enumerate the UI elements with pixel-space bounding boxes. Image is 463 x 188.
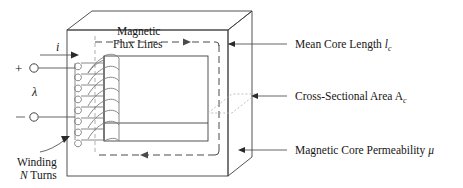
mean-core-length-arrowhead xyxy=(228,41,235,47)
cross-section-slice xyxy=(208,94,256,113)
winding-label-line1: Winding xyxy=(17,156,57,169)
coil-turn-rear-5 xyxy=(104,99,119,103)
winding-callout-arrow xyxy=(40,136,70,152)
right-callouts xyxy=(228,41,287,153)
coil-turn-front-7 xyxy=(88,123,104,139)
coil-loop-8 xyxy=(75,140,82,147)
coil-loop-3 xyxy=(75,85,82,92)
core-permeability-arrowhead xyxy=(238,147,245,153)
flux-linkage-symbol-label: λ xyxy=(31,85,37,99)
coil-turn-rear-6 xyxy=(104,110,119,114)
coil-loop-6 xyxy=(75,118,82,125)
positive-sign-label: + xyxy=(15,61,22,76)
magnetic-core-figure: Magnetic Flux Lines Mean Core Length lc … xyxy=(0,0,463,188)
coil-turn-rear-3 xyxy=(104,77,119,81)
current-symbol-label: i xyxy=(56,40,59,54)
coil-loop-5 xyxy=(75,107,82,114)
positive-terminal[interactable] xyxy=(30,64,38,72)
flux-arrow-bottom xyxy=(140,152,148,159)
flux-corner-bottom-right xyxy=(215,151,219,155)
terminals-and-leads xyxy=(16,64,75,121)
cross-section-subscript: c xyxy=(403,96,407,105)
cross-section-outline xyxy=(208,94,256,113)
mean-core-length-label: Mean Core Length lc xyxy=(295,38,392,53)
coil-turn-front-1 xyxy=(88,57,104,73)
flux-lines-label-line1: Magnetic xyxy=(117,25,160,38)
winding-turns-text: Turns xyxy=(28,169,58,181)
flux-arrow-top xyxy=(183,39,191,46)
core-window-rect xyxy=(104,56,208,141)
coil-turn-front-5 xyxy=(88,101,104,117)
winding-callout-line xyxy=(40,139,66,152)
coil-loop-7 xyxy=(75,129,82,136)
coil-turn-front-6 xyxy=(88,112,104,128)
coil-turn-rear-1 xyxy=(88,57,104,73)
coil-loop-4 xyxy=(75,96,82,103)
flux-corner-top-right xyxy=(216,42,219,46)
coil-loop-2 xyxy=(75,74,82,81)
mean-core-length-subscript: c xyxy=(388,44,392,53)
current-arrow-group xyxy=(40,52,79,59)
coil-turn-rear-2 xyxy=(104,66,119,70)
winding-coil xyxy=(75,54,119,147)
core-permeability-text: Magnetic Core Permeability xyxy=(295,144,428,157)
core-permeability-symbol: μ xyxy=(427,144,434,157)
cross-section-label: Cross-Sectional Area Ac xyxy=(295,90,407,105)
core-permeability-label: Magnetic Core Permeability μ xyxy=(295,144,434,157)
mean-core-length-text: Mean Core Length xyxy=(295,38,385,51)
core-diagram-svg: Magnetic Flux Lines Mean Core Length lc … xyxy=(0,0,463,188)
coil-turn-front-4 xyxy=(88,90,104,106)
coil-loop-1 xyxy=(75,63,82,70)
cross-section-text: Cross-Sectional Area A xyxy=(295,90,404,102)
coil-turn-front-3 xyxy=(88,79,104,95)
current-arrow-head xyxy=(71,52,79,59)
core-window xyxy=(104,56,208,141)
flux-lines-label-line2: Flux Lines xyxy=(113,38,163,50)
negative-terminal[interactable] xyxy=(30,113,38,121)
coil-turn-rear-4 xyxy=(104,88,119,92)
winding-label-line2: N Turns xyxy=(19,169,57,181)
core-right-face xyxy=(228,11,252,176)
coil-wire-loops xyxy=(75,63,82,147)
